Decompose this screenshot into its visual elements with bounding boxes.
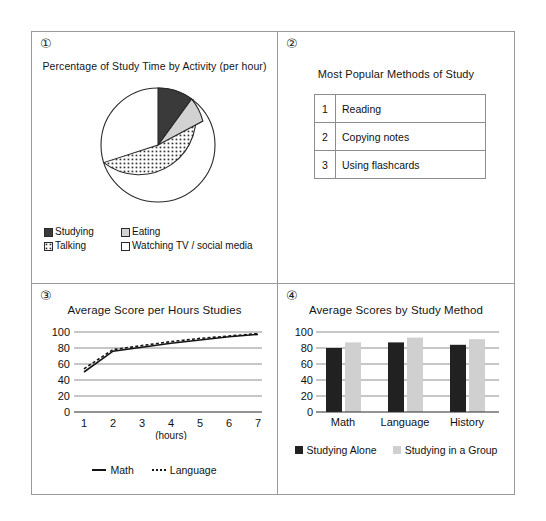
bar-history-alone	[450, 345, 466, 412]
panel-4-bar-chart: ④ Average Scores by Study Method 100 80 …	[278, 284, 514, 494]
table-cell-rank: 2	[315, 123, 336, 151]
table-row: 1 Reading	[315, 95, 486, 123]
worksheet-frame: ① Percentage of Study Time by Activity (…	[31, 31, 515, 495]
table-cell-method: Using flashcards	[336, 151, 486, 179]
methods-table: 1 Reading 2 Copying notes 3 Using flashc…	[314, 94, 486, 179]
svg-text:40: 40	[301, 374, 313, 386]
svg-text:2: 2	[110, 417, 116, 429]
svg-text:0: 0	[307, 406, 313, 418]
bar-math-alone	[326, 348, 342, 412]
svg-text:3: 3	[139, 417, 145, 429]
pie-chart-title: Percentage of Study Time by Activity (pe…	[32, 60, 277, 72]
svg-text:4: 4	[168, 417, 174, 429]
legend-label-studying-alone: Studying Alone	[307, 444, 377, 456]
svg-text:5: 5	[197, 417, 203, 429]
white-square-icon	[121, 242, 130, 251]
panel-1-number: ①	[40, 37, 52, 50]
line-chart-y-tick-labels: 100 80 60 40 20 0	[52, 326, 70, 418]
line-chart-x-tick-labels: 1 2 3 4 5 6 7	[81, 417, 261, 429]
bar-chart-y-tick-labels: 100 80 60 40 20 0	[295, 326, 313, 418]
legend-item-watching-tv: Watching TV / social media	[121, 239, 253, 253]
legend-label-studying: Studying	[55, 225, 94, 239]
bar-chart-graphic: 100 80 60 40 20 0 Math Language History	[284, 322, 509, 434]
svg-text:40: 40	[58, 374, 70, 386]
pie-chart-legend: Studying Eating Talking Watching TV / so…	[44, 225, 270, 253]
svg-text:80: 80	[301, 342, 313, 354]
legend-item-eating: Eating	[121, 225, 160, 239]
svg-text:20: 20	[58, 390, 70, 402]
bar-math-group	[345, 342, 361, 412]
category-label-math: Math	[331, 416, 355, 428]
svg-text:60: 60	[301, 358, 313, 370]
svg-text:6: 6	[226, 417, 232, 429]
legend-item-language: Language	[152, 464, 217, 476]
line-chart-legend: Math Language	[32, 464, 277, 476]
line-series-math	[84, 334, 258, 372]
panel-2-number: ②	[286, 37, 298, 50]
legend-label-watching-tv: Watching TV / social media	[132, 239, 253, 253]
bar-chart-legend: Studying Alone Studying in a Group	[278, 444, 514, 456]
line-chart-title: Average Score per Hours Studies	[32, 304, 277, 316]
bar-language-alone	[388, 342, 404, 412]
pie-svg	[99, 86, 217, 204]
panel-3-number: ③	[40, 289, 52, 302]
bar-chart-title: Average Scores by Study Method	[278, 304, 514, 316]
svg-text:0: 0	[64, 406, 70, 418]
legend-label-language: Language	[170, 464, 217, 476]
bar-chart-category-labels: Math Language History	[331, 416, 485, 428]
legend-item-studying-in-a-group: Studying in a Group	[393, 444, 498, 456]
table-row: 2 Copying notes	[315, 123, 486, 151]
light-gray-square-icon	[393, 446, 401, 454]
svg-text:7: 7	[255, 417, 261, 429]
table-cell-rank: 1	[315, 95, 336, 123]
dotted-square-icon	[44, 242, 53, 251]
table-cell-method: Copying notes	[336, 123, 486, 151]
bar-history-group	[469, 339, 485, 412]
legend-item-math: Math	[92, 464, 133, 476]
panel-4-number: ④	[286, 289, 298, 302]
legend-item-talking: Talking	[44, 239, 114, 253]
legend-label-math: Math	[110, 464, 133, 476]
svg-text:100: 100	[52, 326, 70, 338]
methods-table-title: Most Popular Methods of Study	[278, 68, 514, 80]
svg-text:100: 100	[295, 326, 313, 338]
svg-text:60: 60	[58, 358, 70, 370]
line-chart-x-axis-label: (hours)	[155, 430, 187, 440]
svg-text:80: 80	[58, 342, 70, 354]
svg-text:1: 1	[81, 417, 87, 429]
bar-language-group	[407, 338, 423, 412]
light-gray-square-icon	[121, 228, 130, 237]
dotted-line-icon	[152, 469, 166, 471]
svg-text:20: 20	[301, 390, 313, 402]
table-row: 3 Using flashcards	[315, 151, 486, 179]
line-chart-graphic: 100 80 60 40 20 0 1 2 3 4 5 6 7 (hours)	[40, 322, 270, 440]
legend-item-studying-alone: Studying Alone	[295, 444, 377, 456]
solid-line-icon	[92, 469, 106, 471]
panel-1-pie-chart: ① Percentage of Study Time by Activity (…	[32, 32, 278, 284]
legend-item-studying: Studying	[44, 225, 114, 239]
panel-2-methods-table: ② Most Popular Methods of Study 1 Readin…	[278, 32, 514, 284]
panel-3-line-chart: ③ Average Score per Hours Studies 100 80…	[32, 284, 278, 494]
category-label-language: Language	[381, 416, 430, 428]
dark-square-icon	[44, 228, 53, 237]
table-cell-method: Reading	[336, 95, 486, 123]
table-cell-rank: 3	[315, 151, 336, 179]
legend-label-talking: Talking	[55, 239, 86, 253]
legend-label-studying-in-a-group: Studying in a Group	[405, 444, 498, 456]
dark-square-icon	[295, 446, 303, 454]
category-label-history: History	[450, 416, 485, 428]
pie-chart-graphic	[99, 86, 217, 204]
legend-label-eating: Eating	[132, 225, 160, 239]
